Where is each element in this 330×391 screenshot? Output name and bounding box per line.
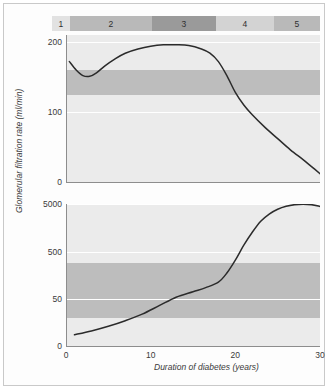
gfr-plot-area — [66, 35, 320, 182]
y-axis-line — [66, 35, 67, 182]
stage-label: 1 — [59, 19, 64, 29]
x-axis-line — [66, 182, 320, 183]
stage-segment-1: 1 — [52, 16, 70, 31]
y-tick-label: 5000 — [18, 199, 62, 209]
curve-layer — [66, 35, 320, 182]
stage-segment-4: 4 — [216, 16, 274, 31]
stage-label: 4 — [243, 19, 248, 29]
data-curve — [69, 45, 320, 174]
y-tick-label: 500 — [18, 247, 62, 257]
figure-frame: 12345 Glomerular filtration rate (ml/min… — [3, 3, 325, 386]
x-axis-line — [66, 346, 320, 347]
nephropathy-stage-bar: 12345 — [52, 16, 320, 31]
curve-layer — [66, 204, 320, 346]
y-tick-label: 200 — [18, 37, 62, 47]
albumin-plot-area — [66, 204, 320, 346]
y-tick-label: 0 — [18, 341, 62, 351]
stage-segment-3: 3 — [152, 16, 216, 31]
x-axis-title: Duration of diabetes (years) — [154, 362, 259, 372]
y-tick-label: 100 — [18, 107, 62, 117]
x-tick-label: 0 — [64, 350, 69, 360]
stage-label: 5 — [295, 19, 300, 29]
stage-segment-2: 2 — [70, 16, 152, 31]
x-tick-label: 30 — [315, 350, 324, 360]
stage-label: 3 — [182, 19, 187, 29]
stage-label: 2 — [109, 19, 114, 29]
y-axis-line — [66, 204, 67, 346]
y-tick-label: 50 — [18, 294, 62, 304]
stage-segment-5: 5 — [274, 16, 320, 31]
data-curve — [74, 204, 320, 335]
y-tick-label: 0 — [18, 177, 62, 187]
x-tick-label: 10 — [146, 350, 155, 360]
x-tick-label: 20 — [231, 350, 240, 360]
